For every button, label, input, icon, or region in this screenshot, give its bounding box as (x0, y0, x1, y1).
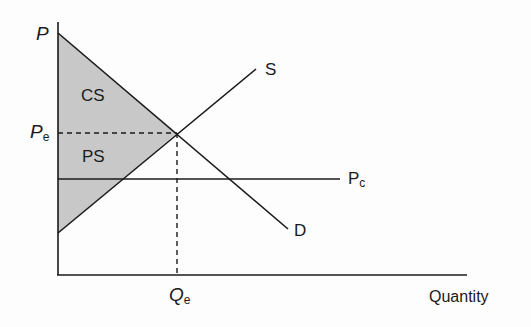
supply-curve-label: S (265, 61, 276, 78)
equilibrium-quantity-label-sub: e (184, 293, 191, 307)
price-ceiling-label-sub: c (359, 176, 365, 190)
equilibrium-price-label-main: P (30, 121, 43, 142)
price-ceiling-label: Pc (348, 170, 365, 189)
producer-surplus-label: PS (82, 148, 105, 165)
y-axis-label: P (36, 24, 49, 43)
equilibrium-quantity-label: Qe (169, 285, 190, 306)
equilibrium-quantity-label-main: Q (169, 284, 184, 305)
demand-curve-label: D (294, 222, 306, 239)
consumer-surplus-label: CS (81, 87, 105, 104)
diagram-graphic (0, 0, 531, 327)
supply-demand-diagram: P Pe CS PS S D Pc Qe Quantity (0, 0, 531, 327)
equilibrium-price-label-sub: e (43, 130, 50, 144)
x-axis-label: Quantity (429, 289, 489, 305)
price-ceiling-label-main: P (348, 169, 359, 188)
equilibrium-price-label: Pe (30, 122, 49, 143)
